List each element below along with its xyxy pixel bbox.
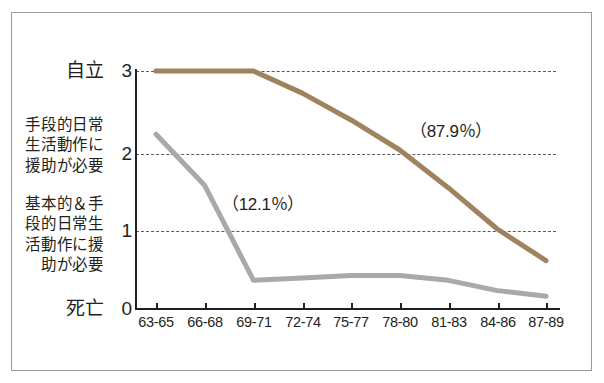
gridline-value-2 xyxy=(136,154,556,155)
x-tick-0 xyxy=(156,303,158,310)
x-tick-8 xyxy=(546,303,548,310)
x-tick-2 xyxy=(254,303,256,310)
x-label-87-89: 87-89 xyxy=(519,314,573,330)
y-label-iadl-assistance: 手段的日常 生活動作に 援助が必要 xyxy=(25,115,104,176)
annotation-brown-percentage: （87.9％） xyxy=(410,117,492,142)
y-axis-category-labels: 自立 手段的日常 生活動作に 援助が必要 基本的＆手 段的日常生 活動作に援 助… xyxy=(18,0,104,383)
annotation-gray-percentage: （12.1％） xyxy=(222,190,304,215)
x-label-66-68: 66-68 xyxy=(178,314,232,330)
x-label-84-86: 84-86 xyxy=(471,314,525,330)
y-axis-values: 3 2 1 0 xyxy=(104,0,132,383)
x-tick-1 xyxy=(205,303,207,310)
x-label-63-65: 63-65 xyxy=(129,314,183,330)
x-label-81-83: 81-83 xyxy=(422,314,476,330)
x-tick-4 xyxy=(351,303,353,310)
gridline-value-3 xyxy=(136,71,556,72)
x-tick-6 xyxy=(449,303,451,310)
plot-area xyxy=(136,71,556,308)
chart-page: 3 2 1 0 自立 手段的日常 生活動作に 援助が必要 基本的＆手 段的日常生… xyxy=(0,0,604,383)
y-label-independent: 自立 xyxy=(66,61,104,80)
y-axis-line xyxy=(135,69,137,310)
x-label-69-71: 69-71 xyxy=(227,314,281,330)
x-tick-3 xyxy=(303,303,305,310)
y-label-death: 死亡 xyxy=(66,299,104,318)
y-tick-value-3: 3 xyxy=(110,61,132,80)
y-tick-value-1: 1 xyxy=(110,221,132,240)
y-tick-value-2: 2 xyxy=(110,144,132,163)
x-label-78-80: 78-80 xyxy=(373,314,427,330)
y-label-adl-iadl-assistance: 基本的＆手 段的日常生 活動作に援 助が必要 xyxy=(25,194,104,276)
x-tick-5 xyxy=(400,303,402,310)
x-axis-line xyxy=(135,308,560,310)
gridline-value-1 xyxy=(136,231,556,232)
x-label-75-77: 75-77 xyxy=(324,314,378,330)
x-label-72-74: 72-74 xyxy=(276,314,330,330)
x-tick-7 xyxy=(498,303,500,310)
